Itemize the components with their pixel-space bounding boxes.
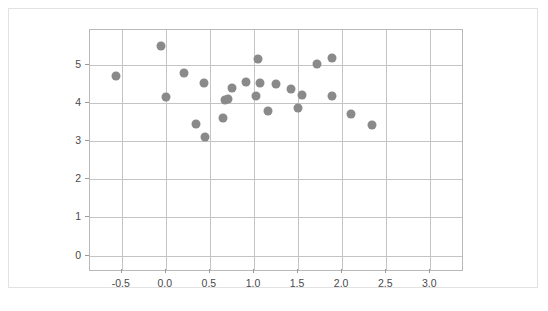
scatter-point [328, 92, 337, 101]
gridline-horizontal [90, 65, 462, 66]
gridline-horizontal [90, 141, 462, 142]
gridline-horizontal [90, 103, 462, 104]
scatter-point [346, 109, 355, 118]
y-axis-tick-label: 1 [57, 210, 81, 222]
y-tick-mark [85, 178, 89, 179]
y-tick-mark [85, 216, 89, 217]
scatter-point [251, 92, 260, 101]
y-tick-mark [85, 140, 89, 141]
x-tick-mark [429, 269, 430, 273]
scatter-point [227, 83, 236, 92]
y-axis-tick-label: 3 [57, 134, 81, 146]
scatter-point [272, 79, 281, 88]
x-tick-mark [385, 269, 386, 273]
scatter-point [286, 85, 295, 94]
scatter-point [219, 114, 228, 123]
x-axis-tick-label: -0.5 [112, 277, 130, 289]
x-tick-mark [165, 269, 166, 273]
scatter-point [112, 72, 121, 81]
x-axis-tick-label: 2.0 [334, 277, 349, 289]
y-tick-mark [85, 255, 89, 256]
gridline-horizontal [90, 179, 462, 180]
x-tick-mark [341, 269, 342, 273]
scatter-point [297, 90, 306, 99]
x-tick-mark [121, 269, 122, 273]
gridline-horizontal [90, 217, 462, 218]
scatter-point [200, 133, 209, 142]
y-axis-tick-label: 0 [57, 249, 81, 261]
scatter-point [368, 120, 377, 129]
scatter-point [264, 107, 273, 116]
scatter-point [242, 77, 251, 86]
figure-card: -0.50.00.51.01.52.02.53.0012345 [8, 8, 538, 288]
scatter-point [327, 54, 336, 63]
scatter-point [254, 54, 263, 63]
y-axis-tick-label: 4 [57, 96, 81, 108]
x-axis-tick-label: 3.0 [422, 277, 437, 289]
y-tick-mark [85, 102, 89, 103]
x-tick-mark [253, 269, 254, 273]
x-axis-tick-label: 0.0 [157, 277, 172, 289]
x-tick-mark [297, 269, 298, 273]
x-axis-tick-label: 1.5 [290, 277, 305, 289]
scatter-point [157, 42, 166, 51]
x-tick-mark [209, 269, 210, 273]
scatter-point [256, 78, 265, 87]
scatter-point [199, 78, 208, 87]
plot-area [89, 29, 463, 271]
y-axis-tick-label: 5 [57, 58, 81, 70]
y-axis-tick-label: 2 [57, 172, 81, 184]
scatter-point [294, 104, 303, 113]
scatter-point [191, 120, 200, 129]
scatter-point [312, 60, 321, 69]
x-axis-tick-label: 2.5 [378, 277, 393, 289]
x-axis-tick-label: 1.0 [246, 277, 261, 289]
scatter-point [161, 92, 170, 101]
scatter-point [223, 95, 232, 104]
gridline-horizontal [90, 256, 462, 257]
y-tick-mark [85, 64, 89, 65]
x-axis-tick-label: 0.5 [202, 277, 217, 289]
scatter-plot: -0.50.00.51.01.52.02.53.0012345 [9, 9, 539, 289]
scatter-point [180, 69, 189, 78]
